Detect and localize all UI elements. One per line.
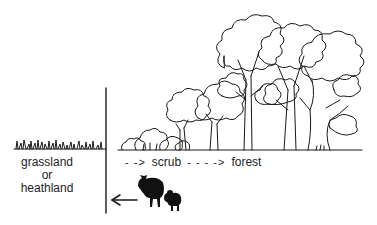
succession-arrow-2: - - - ->	[187, 156, 225, 168]
grassland-label-line-3: heathland	[6, 182, 88, 195]
arrow-left-icon	[112, 195, 137, 205]
oak-tree-icon	[299, 31, 364, 150]
scrub-icon	[122, 128, 190, 150]
succession-stages: - -> scrub - - - -> forest	[125, 155, 261, 169]
small-tree-icon	[166, 88, 210, 150]
stage-label-scrub: scrub	[152, 155, 181, 169]
succession-arrow-1: - ->	[125, 156, 146, 168]
grassland-label: grassland or heathland	[6, 156, 88, 195]
forest-tree-icon	[258, 23, 326, 150]
grass-icon	[14, 140, 106, 149]
medium-tree-icon	[195, 81, 245, 150]
stage-label-forest: forest	[231, 155, 261, 169]
cow-icon	[138, 175, 164, 207]
tall-tree-icon	[216, 15, 284, 150]
sheep-icon	[164, 190, 181, 211]
